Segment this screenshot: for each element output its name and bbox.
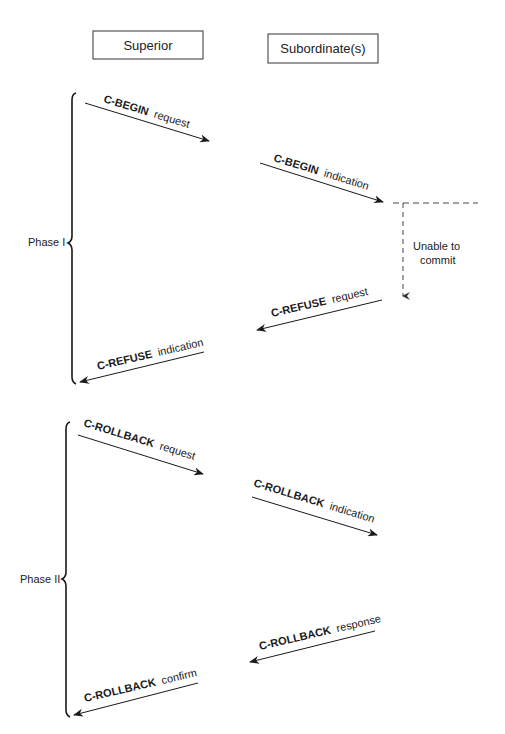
sequence-diagram: Superior Subordinate(s) Phase I Phase II… [0, 0, 505, 734]
message-c-refuse-indication: C-REFUSE indication [80, 336, 204, 382]
participant-superior: Superior [93, 31, 203, 59]
message-name: C-ROLLBACK [252, 476, 326, 509]
message-name: C-ROLLBACK [83, 676, 157, 704]
message-suffix: request [153, 108, 192, 130]
message-c-rollback-response: C-ROLLBACK response [250, 612, 382, 662]
svg-text:C-ROLLBACK request: C-ROLLBACK request [82, 416, 197, 461]
message-name: C-ROLLBACK [82, 416, 156, 449]
unable-to-commit-note: Unable to commit [393, 203, 478, 296]
participant-subordinate-label: Subordinate(s) [280, 41, 365, 56]
message-name: C-REFUSE [96, 348, 153, 372]
message-suffix: request [330, 285, 368, 305]
note-line-1: Unable to [413, 240, 460, 252]
message-c-begin-indication: C-BEGIN indication [260, 151, 383, 202]
message-name: C-ROLLBACK [258, 624, 332, 652]
participant-superior-label: Superior [123, 38, 173, 53]
message-c-rollback-indication: C-ROLLBACK indication [252, 476, 377, 535]
phase-1-bracket: Phase I [28, 93, 76, 384]
message-suffix: request [158, 440, 197, 462]
message-c-begin-request: C-BEGIN request [85, 92, 209, 141]
phase-2-label: Phase II [20, 573, 60, 585]
note-line-2: commit [420, 254, 455, 266]
svg-text:C-ROLLBACK response: C-ROLLBACK response [258, 612, 382, 652]
message-c-rollback-request: C-ROLLBACK request [78, 416, 203, 474]
message-suffix: indication [323, 167, 371, 192]
message-suffix: confirm [160, 666, 198, 686]
message-name: C-BEGIN [102, 92, 150, 117]
svg-text:C-REFUSE request: C-REFUSE request [270, 285, 369, 319]
message-name: C-BEGIN [272, 151, 320, 176]
svg-text:C-BEGIN request: C-BEGIN request [102, 92, 191, 130]
message-c-rollback-confirm: C-ROLLBACK confirm [74, 666, 198, 715]
phase-2-bracket: Phase II [20, 422, 70, 717]
svg-text:C-REFUSE indication: C-REFUSE indication [96, 336, 205, 372]
participant-subordinate: Subordinate(s) [268, 34, 378, 63]
message-c-refuse-request: C-REFUSE request [257, 285, 382, 330]
message-suffix: indication [328, 500, 376, 525]
svg-text:C-ROLLBACK indication: C-ROLLBACK indication [252, 476, 376, 524]
message-suffix: indication [156, 336, 204, 358]
phase-1-label: Phase I [28, 236, 65, 248]
